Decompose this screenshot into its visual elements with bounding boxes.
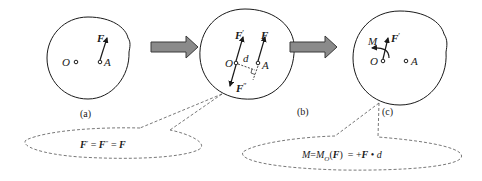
moment-m-label: M [368, 36, 377, 47]
equation-moment: M=MO(F) = +F • d [302, 150, 382, 163]
transition-arrow-1-icon [151, 36, 198, 58]
right-angle-icon [251, 69, 255, 75]
point-o-icon [74, 60, 78, 64]
force-f-label: F [261, 30, 268, 41]
point-a-label: A [411, 56, 418, 67]
force-f-prime-label: F′ [391, 33, 400, 44]
panel-a-caption: (a) [80, 109, 91, 119]
force-translation-diagram: O A F (a) O A d F′ F F″ (b) O A M F′ (c)… [0, 0, 482, 181]
point-o-icon [234, 61, 238, 65]
point-o-icon [381, 59, 385, 63]
force-f-prime-arrow-icon [383, 38, 388, 59]
point-o-label: O [370, 56, 378, 67]
equation-force-equality: F′ = F″ = F [80, 140, 126, 150]
force-f-label: F [97, 33, 104, 44]
point-a-label: A [104, 57, 111, 68]
distance-d-label: d [243, 53, 249, 64]
panel-c-body [353, 11, 447, 105]
panel-b-caption: (b) [297, 107, 309, 117]
distance-d-line-icon [238, 64, 255, 70]
force-f-prime-label: F′ [235, 30, 244, 41]
transition-arrow-2-icon [290, 36, 337, 58]
panel-a-body [47, 17, 130, 99]
point-a-icon [98, 60, 102, 64]
point-o-label: O [225, 58, 233, 69]
force-f-double-prime-label: F″ [236, 83, 247, 94]
point-a-icon [256, 61, 260, 65]
point-o-label: O [62, 57, 70, 68]
point-a-icon [404, 59, 408, 63]
point-a-label: A [262, 60, 269, 71]
panel-c-caption: (c) [382, 107, 393, 117]
